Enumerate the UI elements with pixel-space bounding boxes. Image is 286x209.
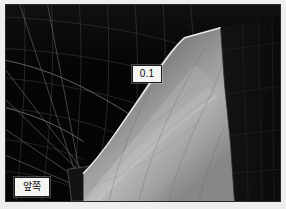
field-vignette: [6, 5, 280, 201]
figure-root: 0.1 앞쪽: [0, 0, 286, 209]
orientation-label-front: 앞쪽: [14, 177, 50, 197]
contour-canvas: [6, 5, 280, 201]
simulation-viewport: 0.1 앞쪽: [5, 4, 281, 202]
contour-level-label: 0.1: [132, 65, 162, 83]
